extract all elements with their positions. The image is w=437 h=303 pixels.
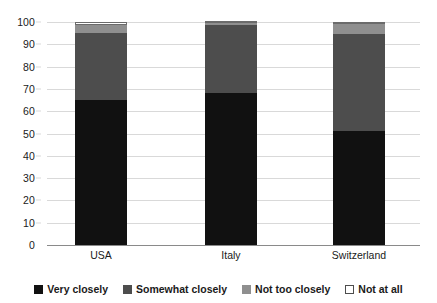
legend-label: Somewhat closely (136, 283, 227, 295)
segment-somewhat-closely (333, 34, 385, 131)
y-tick-mark (36, 200, 41, 201)
y-axis: 100 90 80 70 60 50 40 30 20 10 0 (0, 22, 41, 245)
legend-item-somewhat-closely: Somewhat closely (123, 283, 227, 295)
stacked-bar (75, 22, 127, 245)
bar-group-italy (205, 22, 257, 245)
x-tick-label-italy: Italy (221, 249, 240, 261)
y-tick-label: 100 (17, 16, 35, 28)
stacked-bar (333, 22, 385, 245)
legend-item-very-closely: Very closely (34, 283, 108, 295)
legend-label: Not too closely (255, 283, 330, 295)
y-tick-mark (36, 133, 41, 134)
segment-somewhat-closely (205, 25, 257, 93)
chart-legend: Very closely Somewhat closely Not too cl… (0, 283, 437, 295)
legend-item-not-too-closely: Not too closely (242, 283, 330, 295)
y-tick-label: 80 (23, 61, 35, 73)
y-tick-label: 70 (23, 83, 35, 95)
legend-item-not-at-all: Not at all (345, 283, 402, 295)
segment-not-too-closely (75, 25, 127, 33)
legend-label: Not at all (358, 283, 402, 295)
y-tick-mark (36, 111, 41, 112)
y-tick-mark (36, 88, 41, 89)
plot-area (47, 22, 420, 245)
segment-very-closely (333, 131, 385, 245)
y-tick-mark (36, 44, 41, 45)
x-tick-label-usa: USA (90, 249, 112, 261)
segment-not-at-all (205, 21, 257, 23)
bar-group-switzerland (333, 22, 385, 245)
segment-somewhat-closely (75, 33, 127, 100)
y-tick-label: 20 (23, 194, 35, 206)
x-tick-label-switzerland: Switzerland (332, 249, 386, 261)
y-tick-label: 10 (23, 217, 35, 229)
y-tick-mark (36, 155, 41, 156)
y-tick-label: 50 (23, 128, 35, 140)
y-tick-label: 30 (23, 172, 35, 184)
segment-very-closely (205, 93, 257, 245)
y-tick-mark (36, 222, 41, 223)
legend-swatch-black-icon (34, 285, 43, 294)
segment-not-too-closely (333, 24, 385, 34)
stacked-bar-chart: 100 90 80 70 60 50 40 30 20 10 0 (0, 0, 437, 303)
y-tick-label: 0 (29, 239, 35, 251)
segment-very-closely (75, 100, 127, 245)
y-tick-label: 60 (23, 105, 35, 117)
legend-swatch-dark-gray-icon (123, 285, 132, 294)
y-tick-mark (36, 66, 41, 67)
x-axis: USA Italy Switzerland (47, 249, 420, 265)
legend-swatch-light-gray-icon (242, 285, 251, 294)
y-tick-mark (36, 178, 41, 179)
segment-not-at-all (75, 22, 127, 25)
x-axis-line (47, 245, 420, 246)
segment-not-at-all (333, 22, 385, 24)
y-tick-label: 40 (23, 150, 35, 162)
stacked-bar (205, 22, 257, 245)
legend-swatch-white-icon (345, 285, 354, 294)
y-tick-mark (36, 22, 41, 23)
legend-label: Very closely (47, 283, 108, 295)
bar-group-usa (75, 22, 127, 245)
y-tick-label: 90 (23, 38, 35, 50)
segment-not-too-closely (205, 23, 257, 25)
